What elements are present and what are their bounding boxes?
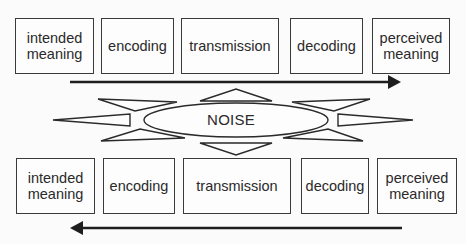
top-encoding-box: encoding <box>101 18 174 74</box>
box-label: decoding <box>306 178 365 194</box>
bottom-intended-meaning-box: intended meaning <box>16 158 95 214</box>
bottom-perceived-meaning-box: perceived meaning <box>377 158 457 214</box>
box-label: transmission <box>189 38 270 54</box>
top-intended-meaning-box: intended meaning <box>15 18 94 74</box>
return-arrow <box>70 221 402 235</box>
box-label: transmission <box>196 178 277 194</box>
box-label: decoding <box>297 38 356 54</box>
top-perceived-meaning-box: perceived meaning <box>372 18 450 74</box>
top-transmission-box: transmission <box>181 18 279 74</box>
top-decoding-box: decoding <box>290 18 363 74</box>
bottom-decoding-box: decoding <box>301 158 369 214</box>
forward-arrow <box>70 75 401 89</box>
noise-label: NOISE <box>207 111 255 128</box>
box-label: encoding <box>110 178 169 194</box>
box-label: encoding <box>108 38 167 54</box>
box-label: perceived meaning <box>386 170 449 202</box>
bottom-encoding-box: encoding <box>103 158 175 214</box>
bottom-transmission-box: transmission <box>183 158 291 214</box>
box-label: intended meaning <box>27 30 83 62</box>
box-label: intended meaning <box>28 170 84 202</box>
box-label: perceived meaning <box>380 30 443 62</box>
